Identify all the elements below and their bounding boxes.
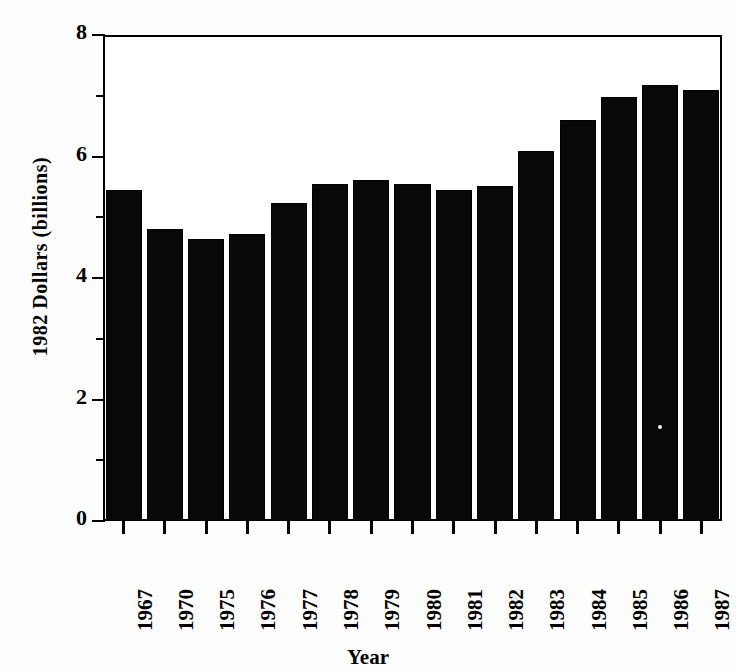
y-label-0: 0 <box>47 507 87 529</box>
bar-1984 <box>560 120 596 521</box>
bar-1982 <box>477 186 513 521</box>
x-tick-1983 <box>535 521 538 534</box>
y-label-8: 8 <box>47 21 87 43</box>
x-tick-1982 <box>494 521 497 534</box>
bar-1980 <box>394 184 430 521</box>
y-tick-minor-1 <box>96 459 105 461</box>
y-tick-major-4 <box>92 277 105 279</box>
y-label-6: 6 <box>47 143 87 165</box>
x-label-1970: 1970 <box>174 531 199 631</box>
x-label-1983: 1983 <box>545 531 570 631</box>
x-label-1981: 1981 <box>463 531 488 631</box>
x-axis-tick-labels: 1967197019751976197719781979198019811982… <box>103 535 722 635</box>
x-tick-1986 <box>659 521 662 534</box>
bar-1975 <box>188 239 224 521</box>
bar-1986 <box>642 85 678 521</box>
x-label-1985: 1985 <box>628 531 653 631</box>
x-label-1980: 1980 <box>422 531 447 631</box>
y-tick-minor-5 <box>96 216 105 218</box>
cut-off-title-strip <box>0 0 736 7</box>
x-label-1977: 1977 <box>298 531 323 631</box>
x-tick-1984 <box>576 521 579 534</box>
bar-1985 <box>601 97 637 521</box>
bar-1967 <box>106 190 142 521</box>
bar-1983 <box>518 151 554 521</box>
bars-layer <box>103 35 722 521</box>
bar-1970 <box>147 229 183 521</box>
x-tick-1976 <box>246 521 249 534</box>
x-label-1976: 1976 <box>256 531 281 631</box>
x-tick-1975 <box>205 521 208 534</box>
x-tick-1979 <box>370 521 373 534</box>
x-tick-1977 <box>287 521 290 534</box>
x-tick-1970 <box>163 521 166 534</box>
x-label-1987: 1987 <box>710 531 735 631</box>
bar-1979 <box>353 180 389 521</box>
x-label-1984: 1984 <box>587 531 612 631</box>
y-tick-major-6 <box>92 156 105 158</box>
chart-page: 1982 Dollars (billions) 02468 1967197019… <box>0 0 736 672</box>
bar-1977 <box>271 203 307 521</box>
bar-1978 <box>312 184 348 521</box>
bar-1976 <box>229 234 265 521</box>
x-axis-title: Year <box>0 645 736 672</box>
scan-speck-artifact <box>658 425 662 429</box>
x-label-1975: 1975 <box>215 531 240 631</box>
y-axis-tick-labels: 02468 <box>40 0 87 672</box>
x-tick-1981 <box>452 521 455 534</box>
y-tick-major-2 <box>92 399 105 401</box>
x-tick-1978 <box>328 521 331 534</box>
y-tick-major-0 <box>92 520 105 522</box>
x-label-1979: 1979 <box>380 531 405 631</box>
x-label-1978: 1978 <box>339 531 364 631</box>
x-tick-1987 <box>700 521 703 534</box>
x-tick-1980 <box>411 521 414 534</box>
y-tick-major-8 <box>92 34 105 36</box>
bar-1981 <box>436 190 472 521</box>
x-label-1986: 1986 <box>669 531 694 631</box>
y-label-2: 2 <box>47 386 87 408</box>
x-tick-1967 <box>122 521 125 534</box>
x-label-1967: 1967 <box>133 531 158 631</box>
y-label-4: 4 <box>47 264 87 286</box>
y-tick-minor-3 <box>96 338 105 340</box>
x-label-1982: 1982 <box>504 531 529 631</box>
x-tick-1985 <box>617 521 620 534</box>
bar-1987 <box>683 90 719 521</box>
y-tick-minor-7 <box>96 95 105 97</box>
